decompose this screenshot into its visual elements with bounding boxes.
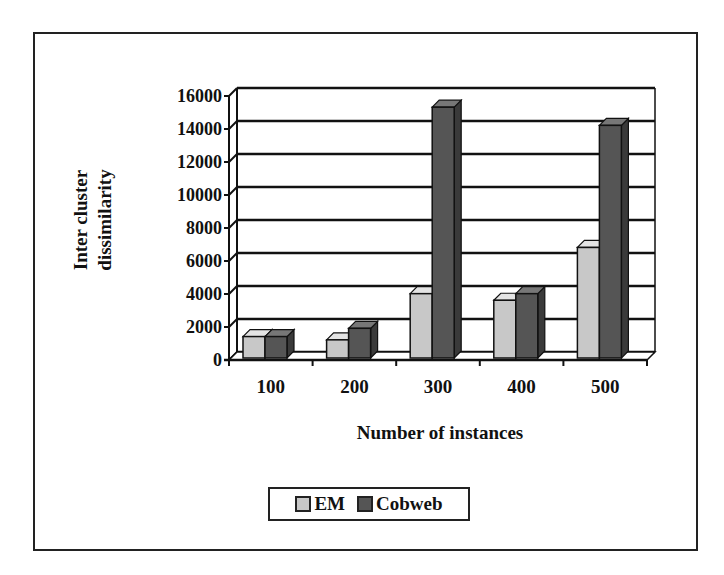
- legend: EM Cobweb: [268, 487, 470, 521]
- y-tick-label: 8000: [186, 218, 222, 238]
- gridline-depth: [229, 319, 237, 327]
- bar-cobweb-300: [432, 107, 454, 358]
- y-tick-label: 10000: [177, 185, 222, 205]
- legend-label-em: EM: [314, 493, 345, 515]
- y-axis-title-line-1: Inter cluster: [69, 169, 93, 270]
- gridline-depth: [229, 253, 237, 261]
- x-tick-label: 100: [257, 376, 286, 397]
- legend-item-cobweb: Cobweb: [357, 493, 443, 515]
- y-axis-title-line-2: dissimilarity: [93, 169, 117, 270]
- y-tick-label: 16000: [177, 86, 222, 106]
- x-tick-label: 200: [340, 376, 369, 397]
- bar-em-500: [577, 247, 599, 358]
- x-tick-label: 400: [507, 376, 536, 397]
- bar-cobweb-100: [265, 337, 287, 358]
- bar-side: [454, 100, 461, 358]
- bar-em-200: [327, 340, 349, 358]
- y-tick-label: 12000: [177, 152, 222, 172]
- bar-cobweb-200: [349, 328, 371, 358]
- y-tick-label: 2000: [186, 317, 222, 337]
- y-tick-label: 6000: [186, 251, 222, 271]
- y-tick-label: 0: [213, 350, 222, 370]
- x-tick-label: 300: [424, 376, 453, 397]
- legend-swatch-cobweb: [357, 496, 373, 512]
- gridline-depth: [229, 187, 237, 195]
- bar-side: [621, 118, 628, 358]
- legend-label-cobweb: Cobweb: [376, 493, 443, 515]
- bar-em-400: [494, 300, 516, 358]
- bar-em-100: [243, 337, 265, 358]
- legend-item-em: EM: [295, 493, 345, 515]
- x-tick-label: 500: [591, 376, 620, 397]
- gridline-depth: [229, 154, 237, 162]
- legend-swatch-em: [295, 496, 311, 512]
- gridline-depth: [229, 121, 237, 129]
- gridline-depth: [229, 220, 237, 228]
- y-tick-label: 4000: [186, 284, 222, 304]
- bar-cobweb-400: [516, 294, 538, 358]
- y-tick-label: 14000: [177, 119, 222, 139]
- bar-em-300: [410, 294, 432, 358]
- x-axis-title: Number of instances: [230, 422, 650, 444]
- bar-side: [538, 287, 545, 358]
- gridline-depth: [229, 286, 237, 294]
- gridline-depth: [229, 88, 237, 96]
- bar-cobweb-500: [599, 125, 621, 358]
- y-axis-title: Inter cluster dissimilarity: [58, 110, 128, 330]
